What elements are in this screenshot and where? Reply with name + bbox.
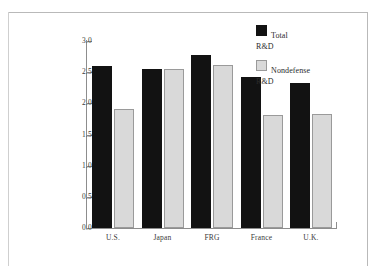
bar-frg-total — [191, 55, 211, 228]
legend-label-total-line2: R&D — [256, 42, 368, 52]
plot-area: 0.00.51.01.52.02.53.0 U.S.JapanFRGFrance… — [0, 0, 381, 266]
bar-uk-nondefense — [312, 114, 332, 228]
chart-legend: Total R&D Nondefense R&D — [256, 24, 368, 93]
legend-label-nondefense-line2: R&D — [256, 77, 368, 87]
legend-entry-total: Total R&D — [256, 24, 368, 52]
figure-bar-chart: 0.00.51.01.52.02.53.0 U.S.JapanFRGFrance… — [0, 0, 381, 266]
x-axis-line — [86, 228, 337, 229]
y-axis-tick-label: 0.0 — [62, 223, 92, 232]
x-axis-end-tick — [336, 222, 337, 229]
x-axis-category-label: U.K. — [282, 233, 340, 242]
bar-frg-nondefense — [213, 65, 233, 228]
y-axis-tick-label-row: 3.0 — [50, 36, 92, 46]
bar-japan-nondefense — [164, 69, 184, 228]
y-axis-tick-label-row: 0.5 — [50, 192, 92, 202]
y-axis-tick-label-row: 1.0 — [50, 161, 92, 171]
gray-square-icon — [256, 60, 267, 71]
y-axis-tick-label: 1.0 — [62, 161, 92, 170]
y-axis-tick-label-row: 0.0 — [50, 223, 92, 233]
bar-france-total — [241, 77, 261, 228]
y-axis-tick-label: 3.0 — [62, 36, 92, 45]
bar-us-total — [92, 66, 112, 228]
y-axis-tick-label-row: 1.5 — [50, 130, 92, 140]
y-axis-tick-label: 2.5 — [62, 67, 92, 76]
legend-label-total-line1: Total — [271, 31, 288, 40]
legend-label-total: Total R&D — [256, 31, 368, 52]
bar-uk-total — [290, 83, 310, 228]
legend-entry-nondefense: Nondefense R&D — [256, 59, 368, 87]
bar-france-nondefense — [263, 115, 283, 228]
y-axis-tick-label: 0.5 — [62, 192, 92, 201]
legend-label-nondefense: Nondefense R&D — [256, 66, 368, 87]
y-axis-tick-label-row: 2.0 — [50, 98, 92, 108]
black-square-icon — [256, 25, 267, 36]
y-axis-tick-label: 1.5 — [62, 130, 92, 139]
bar-japan-total — [142, 69, 162, 228]
bar-us-nondefense — [114, 109, 134, 228]
legend-label-nondefense-line1: Nondefense — [271, 66, 310, 75]
y-axis-tick-label: 2.0 — [62, 98, 92, 107]
y-axis-tick-label-row: 2.5 — [50, 67, 92, 77]
